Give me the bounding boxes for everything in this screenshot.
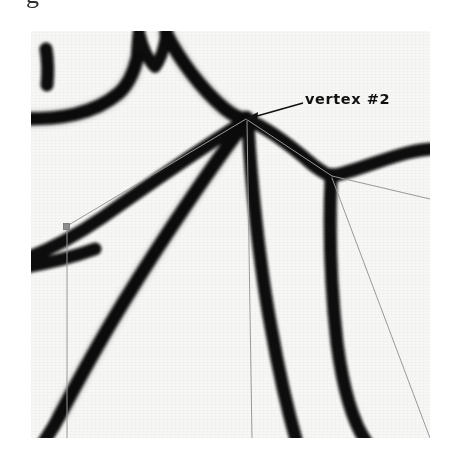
figure-caption-clip: g xyxy=(0,0,452,26)
vertex-marker-square xyxy=(64,224,70,230)
ink-left-blob xyxy=(46,49,48,85)
figure-caption-text: g xyxy=(26,0,40,10)
figure-root: g xyxy=(0,0,452,457)
annotation-label-vertex2: vertex #2 xyxy=(305,91,390,107)
